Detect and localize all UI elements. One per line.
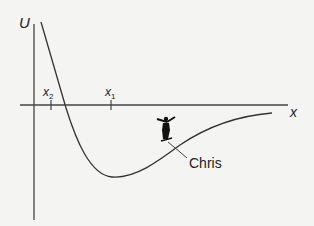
x-axis-label: x xyxy=(290,104,297,120)
marker-x2-label: x2 xyxy=(43,85,53,101)
potential-curve xyxy=(41,22,272,177)
skateboarder-icon xyxy=(157,117,175,141)
chris-label: Chris xyxy=(189,155,222,171)
annotation-leader xyxy=(168,142,187,158)
y-axis-label: U xyxy=(19,14,30,31)
potential-energy-diagram: U x x2 x1 Chris xyxy=(0,0,314,226)
marker-x1-label: x1 xyxy=(105,85,115,101)
